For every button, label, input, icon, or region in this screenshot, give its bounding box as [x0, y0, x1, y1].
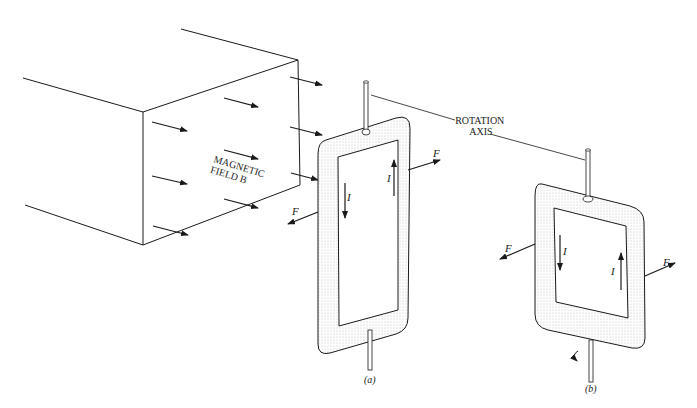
axle-bottom-b [589, 340, 593, 382]
magnet-block [23, 29, 300, 245]
force-arrow-b-right [645, 263, 675, 276]
coil-loop-b: I I F F (b) [500, 149, 675, 395]
force-arrow-a-right [408, 160, 440, 170]
force-label-b-left: F [504, 242, 512, 254]
force-label-a-right: F [432, 147, 440, 159]
coil-loop-a: I I F F (a) [288, 81, 440, 386]
axle-top-a [364, 82, 368, 132]
panel-label-b: (b) [585, 383, 597, 395]
magnetic-field-label: MAGNETIC FIELD B [209, 153, 268, 190]
panel-label-a: (a) [364, 374, 376, 386]
axle-top-b [586, 150, 590, 198]
motor-principle-diagram: MAGNETIC FIELD B I I F F (a) ROTATION AX… [0, 0, 697, 408]
axle-bottom-a [368, 330, 372, 370]
rotation-arrow-icon [574, 351, 578, 361]
force-label-b-right: F [662, 256, 670, 268]
rotation-axis-label: ROTATION AXIS [455, 115, 507, 137]
force-label-a-left: F [291, 205, 299, 217]
